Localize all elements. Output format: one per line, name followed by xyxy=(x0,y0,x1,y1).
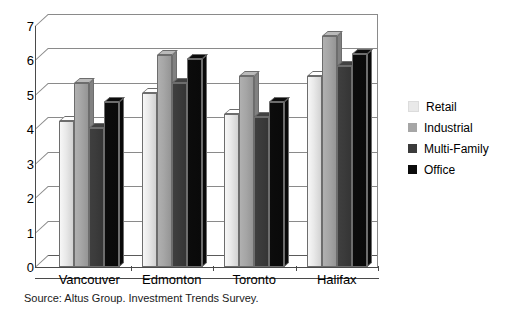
bar-group xyxy=(48,14,131,267)
axis-depth-edge xyxy=(35,14,49,27)
bar-side-face xyxy=(202,54,207,267)
bar-front-face xyxy=(254,117,269,267)
bar-side-face xyxy=(284,97,289,267)
legend-item[interactable]: Multi-Family xyxy=(408,138,489,159)
bar[interactable] xyxy=(224,114,239,267)
axis-depth-edge xyxy=(35,83,49,96)
y-tick-label: 4 xyxy=(8,123,34,136)
axis-depth-edge xyxy=(35,49,49,62)
bar[interactable] xyxy=(172,83,187,267)
axis-depth-edge xyxy=(35,186,49,199)
bar-front-face xyxy=(322,36,337,267)
legend-label: Retail xyxy=(426,101,457,113)
bar[interactable] xyxy=(89,128,104,267)
bar-side-face xyxy=(119,97,124,267)
legend-label: Multi-Family xyxy=(424,143,489,155)
axis-depth-edge xyxy=(35,152,49,165)
category-label: Vancouver xyxy=(48,273,131,287)
y-tick-label: 0 xyxy=(8,261,34,274)
bar-front-face xyxy=(352,54,367,267)
source-note: Source: Altus Group. Investment Trends S… xyxy=(24,292,259,304)
bar[interactable] xyxy=(322,36,337,267)
bar[interactable] xyxy=(187,59,202,267)
bar[interactable] xyxy=(307,76,322,267)
bar[interactable] xyxy=(157,55,172,267)
bar[interactable] xyxy=(239,76,254,267)
category-label: Toronto xyxy=(213,273,296,287)
bar-group xyxy=(213,14,296,267)
bar-front-face xyxy=(89,128,104,267)
plot-area xyxy=(48,14,378,267)
legend-label: Office xyxy=(424,164,455,176)
bar-side-face xyxy=(367,49,372,267)
legend-item[interactable]: Industrial xyxy=(408,117,489,138)
bar-front-face xyxy=(59,121,74,267)
bar-group xyxy=(296,14,379,267)
legend-swatch-icon xyxy=(408,165,417,174)
bar-group xyxy=(131,14,214,267)
bar-front-face xyxy=(104,102,119,267)
bar[interactable] xyxy=(74,83,89,267)
bar[interactable] xyxy=(59,121,74,267)
category-label: Halifax xyxy=(296,273,379,287)
y-tick-label: 5 xyxy=(8,89,34,102)
axis-depth-edge xyxy=(35,117,49,130)
bar[interactable] xyxy=(337,66,352,267)
category-tick xyxy=(213,266,214,271)
bar-front-face xyxy=(74,83,89,267)
chart-legend: RetailIndustrialMulti-FamilyOffice xyxy=(408,96,489,180)
bar[interactable] xyxy=(269,102,284,267)
bar-front-face xyxy=(157,55,172,267)
y-tick-label: 3 xyxy=(8,158,34,171)
bar-chart: 01234567 VancouverEdmontonTorontoHalifax… xyxy=(0,0,520,313)
category-tick xyxy=(378,266,379,271)
y-tick-label: 6 xyxy=(8,54,34,67)
bar[interactable] xyxy=(142,93,157,267)
bar-front-face xyxy=(224,114,239,267)
axis-depth-edge xyxy=(35,255,49,268)
bar-front-face xyxy=(307,76,322,267)
bar-front-face xyxy=(172,83,187,267)
bar-front-face xyxy=(337,66,352,267)
bar-front-face xyxy=(187,59,202,267)
y-tick-label: 1 xyxy=(8,227,34,240)
bar[interactable] xyxy=(104,102,119,267)
bar-front-face xyxy=(142,93,157,267)
y-tick-label: 7 xyxy=(8,20,34,33)
x-axis-line-back xyxy=(35,267,379,268)
legend-item[interactable]: Office xyxy=(408,159,489,180)
legend-swatch-icon xyxy=(408,144,417,153)
bar-front-face xyxy=(239,76,254,267)
legend-swatch-icon xyxy=(408,101,419,112)
y-tick-label: 2 xyxy=(8,192,34,205)
category-label: Edmonton xyxy=(131,273,214,287)
legend-item[interactable]: Retail xyxy=(408,96,489,117)
category-tick xyxy=(131,266,132,271)
y-axis-line xyxy=(35,26,36,267)
bar[interactable] xyxy=(254,117,269,267)
bar[interactable] xyxy=(352,54,367,267)
axis-depth-edge xyxy=(35,221,49,234)
legend-swatch-icon xyxy=(408,123,417,132)
legend-label: Industrial xyxy=(424,122,473,134)
category-tick xyxy=(296,266,297,271)
bar-front-face xyxy=(269,102,284,267)
